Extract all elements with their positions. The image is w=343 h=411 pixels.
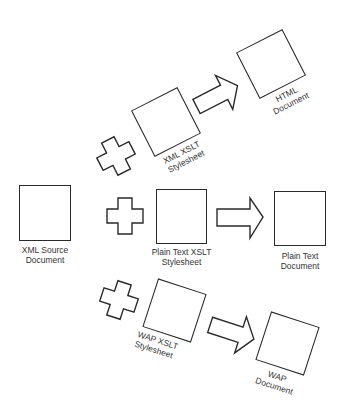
plus-icon — [90, 130, 141, 181]
right-arrow-icon-shape — [203, 306, 261, 359]
plus-icon-shape — [95, 276, 143, 324]
plain-text-document-box — [274, 191, 326, 246]
xml-source-document: XML Source Document — [19, 185, 71, 265]
xml-source-document-box — [19, 185, 71, 241]
right-arrow-icon-shape — [187, 67, 248, 124]
right-arrow-icon — [216, 197, 264, 239]
plain-text-xslt-stylesheet-box — [156, 189, 207, 244]
right-arrow-icon — [203, 306, 261, 359]
html-document: HTML Document — [236, 29, 306, 99]
plus-icon — [106, 197, 144, 235]
wap-document-box — [255, 311, 319, 375]
wap-xslt-stylesheet: WAP XSLT Stylesheet — [142, 278, 206, 342]
xml-source-document-label: XML Source Document — [5, 245, 85, 265]
plain-text-xslt-stylesheet: Plain Text XSLT Stylesheet — [156, 189, 207, 269]
plain-text-document: Plain Text Document — [274, 191, 326, 271]
plus-icon-shape — [106, 197, 144, 235]
plus-icon — [95, 276, 143, 324]
plain-text-xslt-stylesheet-label: Plain Text XSLT Stylesheet — [136, 247, 227, 267]
plus-icon-shape — [90, 130, 141, 181]
right-arrow-icon-shape — [216, 197, 264, 239]
wap-document: WAP Document — [255, 311, 319, 375]
plain-text-document-label: Plain Text Document — [260, 251, 340, 271]
right-arrow-icon — [187, 67, 248, 124]
